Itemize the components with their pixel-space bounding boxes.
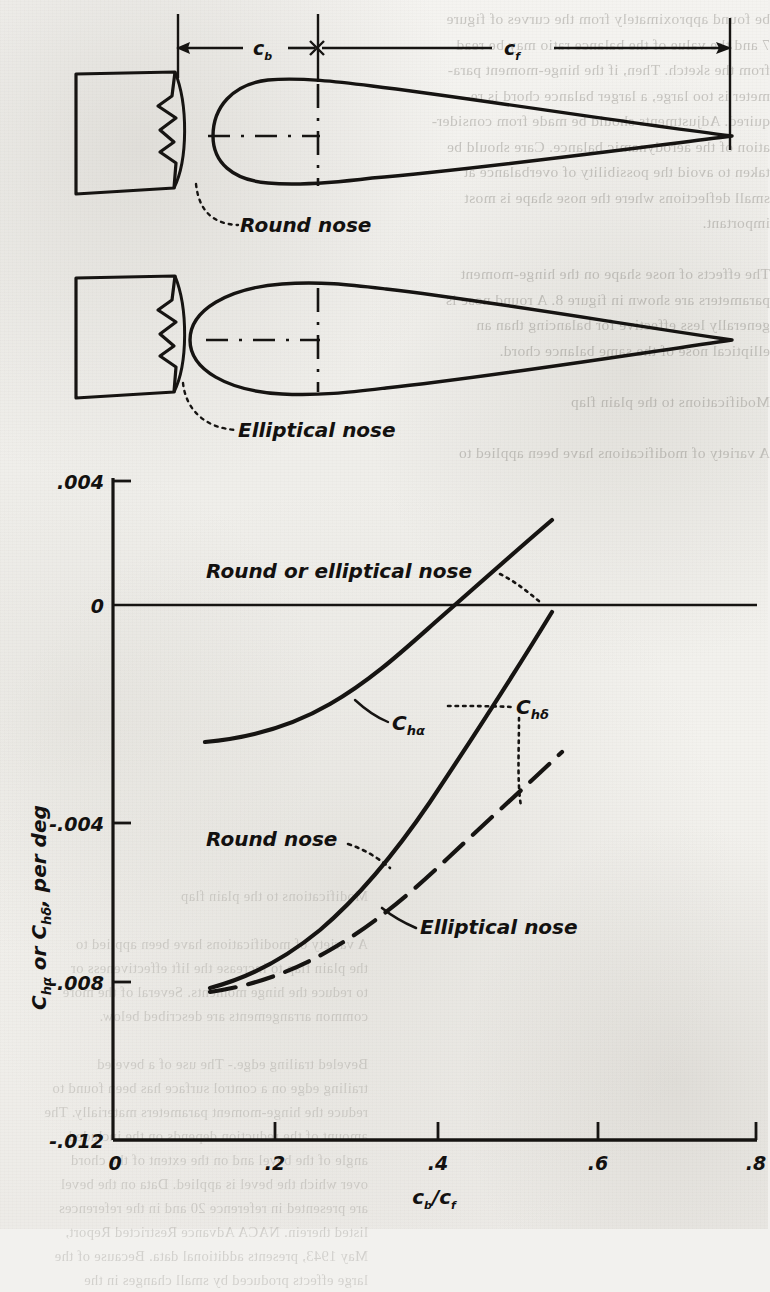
leader-round-nose xyxy=(348,844,390,868)
y-tick-label-4: -.012 xyxy=(49,1130,104,1152)
leader-cha xyxy=(355,700,388,722)
label-cb: cb xyxy=(253,37,272,63)
callout-elliptical-nose: Elliptical nose xyxy=(238,418,396,442)
dimension-cb: cb xyxy=(176,37,324,63)
annotation-round-nose: Round nose xyxy=(206,827,337,851)
x-tick-label-3: .6 xyxy=(588,1152,608,1174)
callout-leader-elliptical-nose xyxy=(183,383,236,430)
curve-chdelta-elliptical-nose xyxy=(210,752,562,992)
x-axis-title: cb/cf xyxy=(412,1185,457,1212)
sketch-elliptical-nose: Elliptical nose xyxy=(76,276,732,442)
callout-leader-round-nose xyxy=(196,184,238,225)
y-tick-label-1: 0 xyxy=(91,595,104,617)
y-tick-label-2: -.004 xyxy=(49,813,104,835)
annotation-round-or-elliptical-nose: Round or elliptical nose xyxy=(206,559,472,583)
y-ticks xyxy=(113,481,131,982)
label-cf: cf xyxy=(504,37,521,63)
x-ticks xyxy=(275,1122,756,1140)
x-tick-label-0: 0 xyxy=(108,1152,121,1174)
leader-chdelta-to-round xyxy=(448,706,512,707)
leader-round-or-elliptical-nose xyxy=(500,574,540,602)
control-surface-round xyxy=(213,79,732,184)
y-tick-label-0: .004 xyxy=(57,471,104,493)
annotation-cha-symbol: Chα xyxy=(392,711,425,738)
y-axis-title: Chα or Chδ, per deg xyxy=(27,805,54,1010)
x-tick-label-1: .2 xyxy=(265,1152,285,1174)
x-tick-label-4: .8 xyxy=(746,1152,766,1174)
hinge-moment-chart: .004 0 -.004 -.008 -.012 0 .2 .4 .6 .8 c… xyxy=(27,471,766,1212)
leader-elliptical-nose xyxy=(382,908,416,928)
sketch-round-nose: cb cf Round nose xyxy=(76,14,732,237)
annotation-elliptical-nose: Elliptical nose xyxy=(420,915,578,939)
x-tick-label-2: .4 xyxy=(428,1152,448,1174)
wing-stub-elliptical xyxy=(76,276,176,398)
callout-round-nose: Round nose xyxy=(240,213,371,237)
curve-cha-round-or-elliptical xyxy=(205,520,552,742)
y-tick-label-3: -.008 xyxy=(49,972,104,994)
annotation-chdelta-symbol: Chδ xyxy=(516,695,549,722)
wing-stub-round xyxy=(76,72,176,194)
dimension-cf: cf xyxy=(322,37,732,63)
leader-chdelta-to-elliptical xyxy=(519,718,522,806)
